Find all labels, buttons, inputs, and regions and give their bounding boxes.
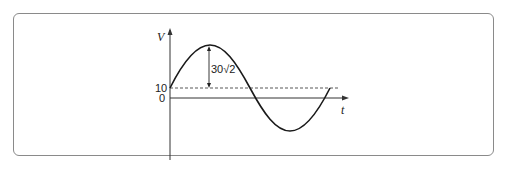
v-axis-label: V [157,31,164,43]
v-axis-arrow-icon [168,28,173,35]
t-axis-label: t [341,104,344,116]
amplitude-arrow-down-icon [207,83,211,88]
waveform-diagram [0,0,507,170]
amplitude-label: 30√2 [211,64,235,75]
tick-label-0: 0 [159,93,165,104]
t-axis-arrow-icon [342,96,349,101]
amplitude-arrow-up-icon [207,46,211,51]
